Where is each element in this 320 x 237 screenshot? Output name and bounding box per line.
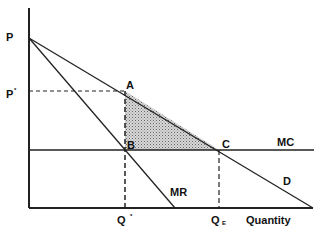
- label-d: D: [283, 175, 291, 187]
- label-q-e-sub: E: [222, 220, 226, 226]
- label-b: B: [127, 139, 135, 151]
- monopoly-diagram: P P * A B C MC MR D Q * Q E Quantity: [0, 0, 320, 237]
- label-c: C: [222, 138, 230, 150]
- deadweight-loss-area: [125, 91, 219, 150]
- label-p-star-sup: *: [14, 87, 17, 93]
- x-axis-label: Quantity: [246, 214, 291, 226]
- label-p: P: [6, 31, 13, 43]
- label-mr: MR: [170, 186, 187, 198]
- demand-curve: [29, 38, 313, 208]
- label-q-star: Q: [117, 214, 126, 226]
- label-p-star: P: [6, 88, 13, 100]
- label-a: A: [126, 79, 134, 91]
- label-mc: MC: [277, 136, 294, 148]
- label-q-star-sup: *: [130, 213, 133, 219]
- label-q-e: Q: [211, 214, 220, 226]
